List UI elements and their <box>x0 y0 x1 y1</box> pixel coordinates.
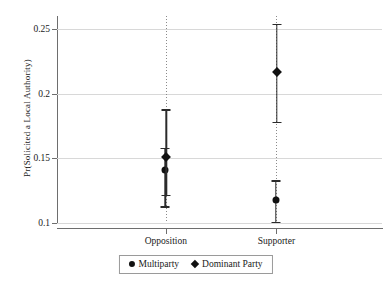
data-point-diamond <box>161 152 171 162</box>
y-tick-label: 0.1 <box>38 218 50 228</box>
circle-marker-icon <box>128 261 134 267</box>
y-tick-label: 0.2 <box>38 89 50 99</box>
legend-label-dominant-party: Dominant Party <box>202 259 262 269</box>
legend-item-multiparty: Multiparty <box>128 259 179 269</box>
error-bar-cap <box>272 24 281 25</box>
data-point-circle <box>272 196 279 203</box>
chart-legend: Multiparty Dominant Party <box>118 255 272 274</box>
y-gridline <box>57 223 382 224</box>
data-point-diamond <box>272 67 282 77</box>
x-tick-label-opposition: Opposition <box>145 236 187 246</box>
y-tick-mark <box>52 158 57 159</box>
x-axis-line <box>57 228 383 229</box>
y-gridline <box>57 29 382 30</box>
y-gridline <box>57 158 382 159</box>
y-axis-label: Pr(Solicited a Local Authority) <box>22 23 32 213</box>
y-tick-label: 0.25 <box>33 24 50 34</box>
error-bar-cap <box>161 206 170 207</box>
error-bar-cap <box>271 222 280 223</box>
error-bar-cap <box>272 122 281 123</box>
legend-item-dominant-party: Dominant Party <box>192 259 262 269</box>
plot-area: 0.10.150.20.25 <box>57 16 382 223</box>
y-tick-mark <box>52 223 57 224</box>
y-tick-mark <box>52 94 57 95</box>
y-gridline <box>57 94 382 95</box>
x-tick-mark <box>276 229 277 234</box>
y-tick-mark <box>52 29 57 30</box>
y-tick-label: 0.15 <box>33 153 50 163</box>
chart-figure: Pr(Solicited a Local Authority) 0.10.150… <box>0 0 391 287</box>
x-tick-mark <box>166 229 167 234</box>
error-bar-cap <box>162 109 171 110</box>
diamond-marker-icon <box>191 260 199 268</box>
legend-label-multiparty: Multiparty <box>138 259 179 269</box>
error-bar-cap <box>162 195 171 196</box>
error-bar-cap <box>271 180 280 181</box>
x-tick-label-supporter: Supporter <box>258 236 295 246</box>
